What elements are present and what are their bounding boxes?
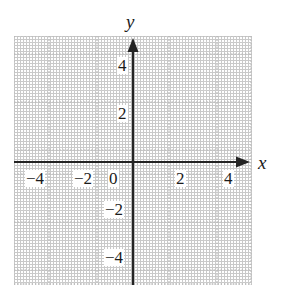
coordinate-plane-figure: −4 −2 0 2 4 4 2 −2 −4 x y [0, 0, 281, 291]
x-tick-label-neg2: −2 [73, 170, 93, 187]
y-tick-label-neg2: −2 [104, 201, 124, 218]
y-tick-label-neg4: −4 [104, 249, 124, 266]
x-tick-label-zero: 0 [108, 170, 119, 187]
y-axis-label: y [126, 12, 134, 31]
x-tick-label-pos4: 4 [223, 170, 234, 187]
plot-area [14, 36, 252, 285]
x-tick-label-pos2: 2 [175, 170, 186, 187]
x-tick-label-neg4: −4 [25, 170, 45, 187]
x-axis-label: x [258, 153, 266, 172]
y-tick-label-pos2: 2 [117, 105, 128, 122]
y-tick-label-pos4: 4 [117, 57, 128, 74]
